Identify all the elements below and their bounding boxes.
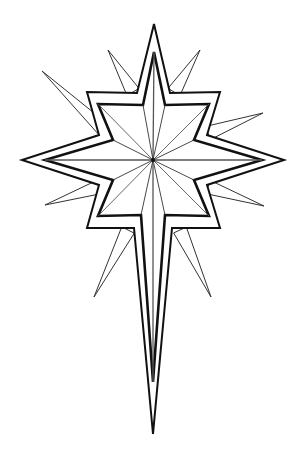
star-center-dot bbox=[151, 158, 155, 162]
spike-lower-right bbox=[206, 180, 264, 206]
spike-upper-right bbox=[168, 50, 200, 96]
spike-lower-left-2 bbox=[45, 180, 101, 205]
spike-upper-right-2 bbox=[206, 113, 263, 140]
spike-lower-right-2 bbox=[174, 227, 211, 297]
spike-lower-left bbox=[94, 227, 134, 297]
star-drawing bbox=[0, 0, 301, 452]
spike-upper-left-2 bbox=[108, 50, 139, 96]
